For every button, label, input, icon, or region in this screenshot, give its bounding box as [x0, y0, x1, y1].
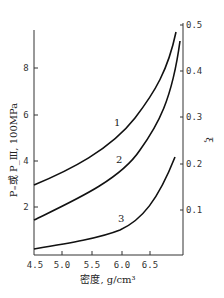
y2-axis-title: ξ — [204, 137, 215, 143]
x-axis-title: 密度, g/cm³ — [80, 273, 135, 285]
y2-tick-0.1: 0.1 — [186, 205, 202, 215]
x-tick-4.5: 4.5 — [27, 260, 43, 270]
curve-3 — [34, 157, 175, 249]
chart: 2 4 6 8 4.5 5.0 5.5 6.0 6.5 0.5 0.4 0.3 … — [0, 0, 224, 298]
y-tick-8: 8 — [23, 63, 28, 73]
y2-tick-0.5: 0.5 — [186, 20, 202, 30]
x-ticks — [62, 251, 150, 255]
y-axis-title: P₌或 P_Ⅲ, 100MPa — [8, 103, 20, 198]
curve-label-1: 1 — [114, 117, 120, 128]
y-tick-2: 2 — [23, 202, 28, 212]
x-tick-5.0: 5.0 — [54, 260, 70, 270]
left-ticks — [34, 68, 38, 207]
y-tick-4: 4 — [23, 156, 28, 166]
y-tick-6: 6 — [23, 110, 28, 120]
curve-1 — [34, 32, 176, 185]
y2-tick-0.2: 0.2 — [186, 159, 202, 169]
x-tick-6.5: 6.5 — [142, 260, 158, 270]
curve-label-2: 2 — [116, 154, 122, 165]
y2-tick-0.3: 0.3 — [186, 112, 202, 122]
x-tick-5.5: 5.5 — [84, 260, 100, 270]
x-tick-6.0: 6.0 — [114, 260, 130, 270]
curve-label-3: 3 — [118, 213, 124, 224]
y2-tick-0.4: 0.4 — [186, 66, 202, 76]
